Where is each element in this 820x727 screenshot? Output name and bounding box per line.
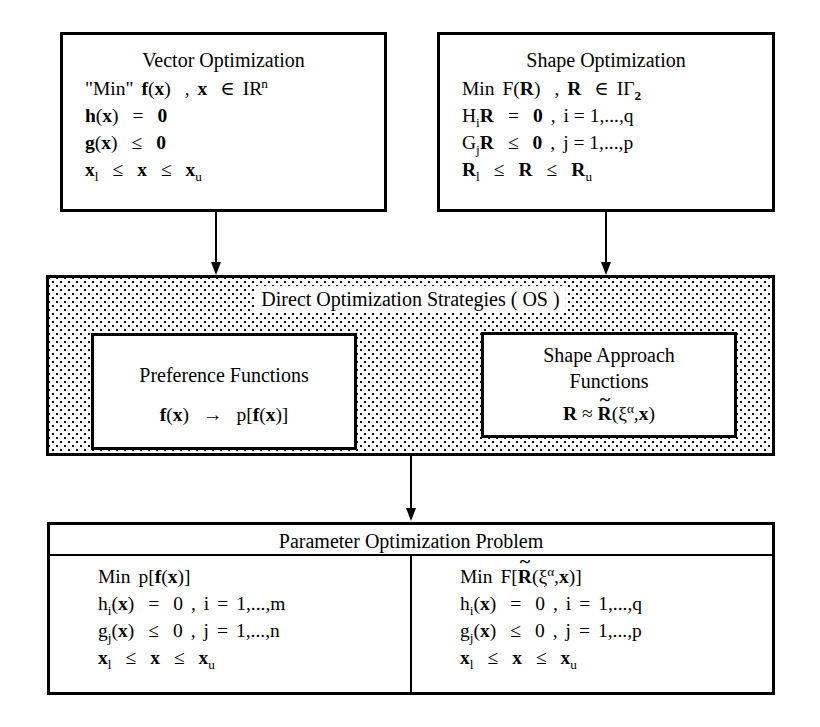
equation-line: GjR≤0,j = 1,...,p <box>462 129 772 156</box>
box-preference-functions: Preference Functions f(x)→p[f(x)] <box>91 333 357 450</box>
vector-optimization-title: Vector Optimization <box>63 47 384 73</box>
equation-line: gj(x)≤0,j=1,...,p <box>460 617 642 644</box>
parameter-optimization-problem-title: Parameter Optimization Problem <box>50 528 772 554</box>
equation-line: hi(x)=0,i=1,...,q <box>460 590 642 617</box>
arrow-shape-to-strategies <box>605 212 607 275</box>
shape-optimization-equations: MinF(R),R ∈IΓ2 HiR=0,i = 1,...,q GjR≤0,j… <box>440 75 772 183</box>
box-shape-approach-functions: Shape Approach Functions R ≈ R(ξα,x) <box>481 332 737 438</box>
shape-approach-functions-title-line1: Shape Approach <box>484 342 734 368</box>
equation-line: Rl≤R≤Ru <box>462 156 772 183</box>
arrow-vector-to-strategies <box>215 212 217 275</box>
equation-line: Minp[f(x)] <box>98 563 286 590</box>
equation-line: MinF(R),R ∈IΓ2 <box>462 75 772 102</box>
parameter-box-column-divider <box>410 554 412 692</box>
equation-line: h(x)=0 <box>85 102 384 129</box>
shape-approach-functions-formula: R ≈ R(ξα,x) <box>484 401 734 427</box>
equation-line: xl≤x≤xu <box>460 644 642 671</box>
equation-line: HiR=0,i = 1,...,q <box>462 102 772 129</box>
panel-direct-optimization-strategies: Direct Optimization Strategies ( OS ) Pr… <box>46 275 775 456</box>
preference-functions-title: Preference Functions <box>94 362 354 388</box>
equation-line: xl≤x≤xu <box>98 644 286 671</box>
equation-line: MinF[R(ξα,x)] <box>460 563 642 590</box>
arrow-strategies-to-parameter <box>410 456 412 522</box>
shape-optimization-title: Shape Optimization <box>440 47 772 73</box>
vector-optimization-equations: "Min"f(x),x ∈IRn h(x)=0 g(x)≤0 xl≤x≤xu <box>63 75 384 183</box>
box-shape-optimization: Shape Optimization MinF(R),R ∈IΓ2 HiR=0,… <box>437 32 775 212</box>
box-parameter-optimization-problem: Parameter Optimization Problem Minp[f(x)… <box>47 522 775 695</box>
parameter-problem-left-column: Minp[f(x)] hi(x)=0,i=1,...,m gj(x)≤0,j=1… <box>98 563 286 671</box>
parameter-problem-right-column: MinF[R(ξα,x)] hi(x)=0,i=1,...,q gj(x)≤0,… <box>460 563 642 671</box>
preference-functions-formula: f(x)→p[f(x)] <box>94 402 354 428</box>
diagram-canvas: Vector Optimization "Min"f(x),x ∈IRn h(x… <box>0 0 820 727</box>
equation-line: "Min"f(x),x ∈IRn <box>85 75 384 102</box>
equation-line: hi(x)=0,i=1,...,m <box>98 590 286 617</box>
direct-optimization-strategies-title: Direct Optimization Strategies ( OS ) <box>255 286 565 312</box>
box-vector-optimization: Vector Optimization "Min"f(x),x ∈IRn h(x… <box>60 32 387 212</box>
equation-line: gj(x)≤0,j=1,...,n <box>98 617 286 644</box>
equation-line: g(x)≤0 <box>85 129 384 156</box>
equation-line: xl≤x≤xu <box>85 156 384 183</box>
